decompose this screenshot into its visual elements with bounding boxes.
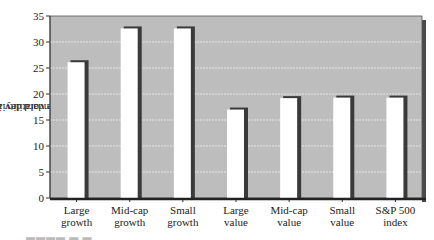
y-tick-label: 0 — [39, 192, 45, 204]
x-tick-label: Mid-cap — [111, 204, 149, 216]
x-tick-label: Large — [64, 204, 90, 216]
x-tick-label: index — [383, 216, 408, 228]
bar — [68, 62, 85, 198]
x-tick-label: growth — [167, 216, 199, 228]
x-tick-label: value — [224, 216, 248, 228]
bar — [280, 98, 297, 198]
x-tick-label: growth — [61, 216, 93, 228]
x-tick-label: S&P 500 — [376, 204, 416, 216]
bar-chart: 05101520253035LargegrowthMid-capgrowthSm… — [0, 0, 434, 240]
y-tick-label: 25 — [33, 62, 45, 74]
y-tick-label: 15 — [33, 114, 45, 126]
x-tick-label: value — [277, 216, 301, 228]
y-tick-label: 35 — [33, 10, 45, 22]
x-tick-label: value — [330, 216, 354, 228]
x-tick-label: Mid-cap — [271, 204, 309, 216]
y-tick-label: 5 — [39, 166, 45, 178]
x-tick-label: Large — [223, 204, 249, 216]
y-tick-label: 10 — [33, 140, 45, 152]
x-tick-label: Small — [170, 204, 196, 216]
bar — [227, 110, 244, 198]
x-tick-label: Small — [329, 204, 355, 216]
y-tick-label: 30 — [33, 36, 45, 48]
plot-shadow — [422, 20, 426, 202]
figure-caption-cutoff: ▬▬▬▬ ▬ ▬ — [26, 232, 93, 240]
y-tick-label: 20 — [33, 88, 45, 100]
x-tick-label: growth — [114, 216, 146, 228]
bar — [121, 28, 138, 198]
bar — [386, 98, 403, 198]
bar — [333, 98, 350, 198]
bar — [174, 28, 191, 198]
